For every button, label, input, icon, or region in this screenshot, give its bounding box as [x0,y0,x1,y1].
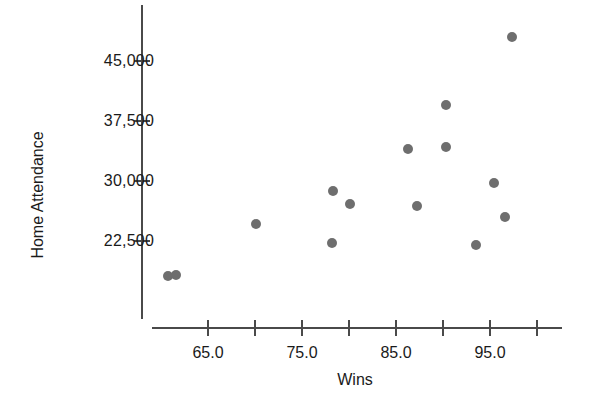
data-point [441,100,451,110]
data-point [441,142,451,152]
x-tick-mark [489,320,491,336]
x-axis-title: Wins [305,371,405,389]
x-minor-tick-mark [536,320,538,336]
y-tick-label: 37,500 [82,113,154,129]
y-tick-label: 22,500 [82,233,154,249]
x-tick-mark [301,320,303,336]
data-point [489,178,499,188]
data-point [345,199,355,209]
data-point [251,219,261,229]
data-point [403,144,413,154]
x-tick-mark [395,320,397,336]
y-axis-title: Home Attendance [29,95,47,295]
data-point [328,186,338,196]
data-point [171,270,181,280]
data-point [507,32,517,42]
x-axis-line [152,327,562,329]
data-point [471,240,481,250]
y-tick-label: 45,000 [82,53,154,69]
x-minor-tick-mark [442,320,444,336]
data-point [412,201,422,211]
x-tick-label: 95.0 [455,344,525,362]
y-tick-label: 30,000 [82,173,154,189]
data-point [327,238,337,248]
data-point [500,212,510,222]
x-tick-label: 65.0 [173,344,243,362]
x-minor-tick-mark [348,320,350,336]
x-tick-label: 75.0 [267,344,337,362]
x-tick-mark [207,320,209,336]
x-tick-label: 85.0 [361,344,431,362]
scatter-chart: 22,50030,00037,50045,000 65.075.085.095.… [0,0,589,410]
x-minor-tick-mark [254,320,256,336]
